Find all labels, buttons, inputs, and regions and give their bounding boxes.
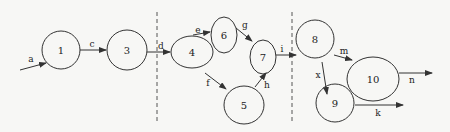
node-5: 5 [224, 86, 264, 124]
edge-c: c [80, 39, 106, 50]
node-label: 1 [58, 45, 64, 56]
edge-m: m [334, 46, 352, 60]
node-label: 6 [221, 30, 227, 41]
edge-label: a [28, 54, 34, 64]
node-label: 7 [260, 52, 266, 63]
edge-f: f [205, 73, 226, 89]
node-8: 8 [296, 20, 334, 58]
edge-label: h [264, 80, 270, 90]
node-label: 10 [367, 74, 380, 85]
edge-label: n [409, 75, 415, 85]
node-label: 3 [124, 45, 130, 56]
edge-g: g [236, 20, 252, 41]
edge-k: k [355, 105, 403, 118]
node-label: 5 [241, 100, 247, 111]
edge-label: d [158, 41, 164, 51]
arrow-icon [322, 62, 327, 94]
edge-label: i [281, 44, 284, 54]
edge-label: m [340, 46, 349, 56]
node-4: 4 [171, 36, 213, 68]
edge-label: f [206, 78, 210, 88]
edge-i: i [276, 44, 296, 55]
graph-svg: acdegfhimxnk 1346758109 [0, 0, 450, 132]
arrow-icon [20, 63, 46, 70]
node-label: 4 [189, 47, 195, 58]
node-9: 9 [316, 84, 354, 122]
edge-e: e [193, 25, 210, 35]
nodes: 1346758109 [42, 17, 399, 124]
edge-d: d [147, 41, 170, 52]
node-6: 6 [211, 17, 237, 53]
edge-n: n [399, 73, 432, 85]
edge-h: h [255, 73, 270, 90]
node-10: 10 [347, 57, 399, 101]
edge-a: a [20, 54, 46, 70]
edge-label: x [315, 70, 320, 80]
edge-label: e [195, 25, 200, 35]
node-3: 3 [107, 30, 147, 70]
flow-graph-diagram: acdegfhimxnk 1346758109 [0, 0, 450, 132]
edge-label: c [89, 39, 94, 49]
edge-label: g [242, 20, 248, 30]
node-7: 7 [250, 40, 276, 74]
node-1: 1 [42, 31, 80, 69]
node-label: 8 [312, 34, 318, 45]
node-label: 9 [332, 98, 338, 109]
edge-label: k [375, 108, 381, 118]
